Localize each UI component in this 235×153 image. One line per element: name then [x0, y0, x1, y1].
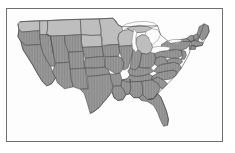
state-AL[interactable] [130, 79, 143, 98]
map-figure: Shaded Unshaded Water [0, 0, 235, 153]
state-OH[interactable] [139, 52, 156, 68]
state-KS[interactable] [84, 56, 105, 68]
state-NM[interactable] [70, 68, 88, 89]
state-ID-north[interactable] [40, 21, 48, 35]
state-SD[interactable] [81, 35, 102, 48]
us-choropleth-map[interactable] [7, 9, 222, 141]
state-IA[interactable] [102, 44, 120, 56]
state-WA[interactable] [18, 21, 40, 32]
state-ND[interactable] [80, 19, 101, 36]
state-CO[interactable] [68, 51, 85, 69]
state-MT[interactable] [47, 19, 82, 36]
map-frame [6, 8, 223, 142]
state-WY[interactable] [64, 35, 83, 53]
